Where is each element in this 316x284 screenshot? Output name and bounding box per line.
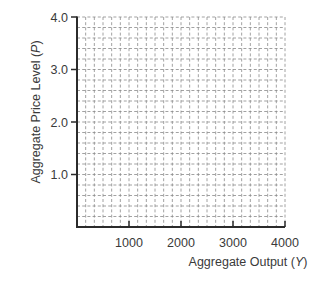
- x-tick-label: 3000: [219, 236, 247, 250]
- y-axis-title: Aggregate Price Level (P): [29, 40, 43, 183]
- x-tick-label: 2000: [167, 236, 195, 250]
- y-axis-ticks: 1.02.03.04.0: [51, 11, 77, 183]
- axes: [76, 17, 285, 229]
- x-axis-title: Aggregate Output (Y): [189, 255, 308, 269]
- y-tick-label: 4.0: [51, 11, 68, 25]
- x-tick-label: 1000: [115, 236, 143, 250]
- x-tick-label: 4000: [271, 236, 299, 250]
- grid-lines: [77, 17, 285, 227]
- chart-canvas: 1.02.03.04.0 1000200030004000 Aggregate …: [0, 0, 316, 284]
- y-tick-label: 3.0: [51, 63, 68, 77]
- y-tick-label: 1.0: [51, 168, 68, 182]
- y-tick-label: 2.0: [51, 116, 68, 130]
